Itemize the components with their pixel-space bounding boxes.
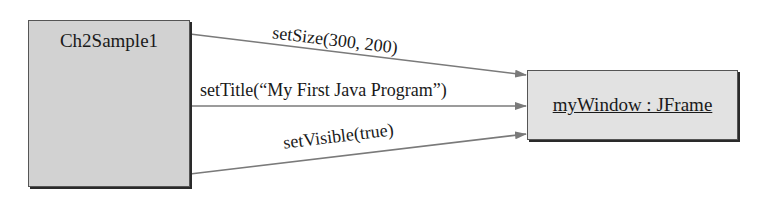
receiver-object-box: myWindow : JFrame [527, 70, 738, 140]
message-label-settitle: setTitle(“My First Java Program”) [200, 80, 447, 101]
receiver-object-name: myWindow : JFrame [528, 94, 737, 116]
sender-object-name: Ch2Sample1 [29, 30, 189, 52]
sender-object-box: Ch2Sample1 [28, 20, 190, 187]
